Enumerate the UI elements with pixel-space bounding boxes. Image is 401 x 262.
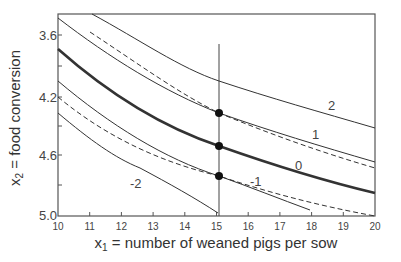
- svg-text:4.6: 4.6: [39, 148, 57, 163]
- svg-text:-1: -1: [250, 174, 262, 189]
- y-tick-labels: 3.6 4.2 4.6 5.0: [39, 28, 57, 223]
- svg-text:0: 0: [295, 158, 302, 173]
- contour-chart: 10 11 12 13 14 15 16 17 18 19 20 3.6 4.2…: [0, 0, 401, 262]
- x-axis-label: x1 = number of weaned pigs per sow: [95, 234, 338, 253]
- svg-text:1: 1: [312, 127, 319, 142]
- svg-text:16: 16: [243, 221, 255, 232]
- svg-text:11: 11: [85, 221, 96, 232]
- svg-text:3.6: 3.6: [39, 28, 57, 43]
- svg-text:2: 2: [328, 98, 335, 113]
- contour-labels: 2 1 0 -1 -2: [130, 98, 335, 191]
- curve-minus1: [58, 81, 310, 210]
- svg-text:17: 17: [274, 221, 286, 232]
- svg-text:18: 18: [306, 221, 318, 232]
- svg-text:4.2: 4.2: [39, 90, 57, 105]
- svg-text:12: 12: [116, 221, 128, 232]
- svg-text:20: 20: [369, 221, 381, 232]
- svg-text:5.0: 5.0: [39, 208, 57, 223]
- x-tick-labels: 10 11 12 13 14 15 16 17 18 19 20: [52, 221, 381, 232]
- curve-0: [58, 49, 375, 193]
- curve-minus2: [58, 113, 218, 213]
- svg-text:14: 14: [179, 221, 191, 232]
- svg-text:-2: -2: [130, 176, 142, 191]
- curve-1: [58, 18, 375, 162]
- svg-text:15: 15: [211, 221, 223, 232]
- svg-text:13: 13: [148, 221, 160, 232]
- svg-text:19: 19: [338, 221, 350, 232]
- y-axis-label: x2 = food conversion: [6, 50, 25, 186]
